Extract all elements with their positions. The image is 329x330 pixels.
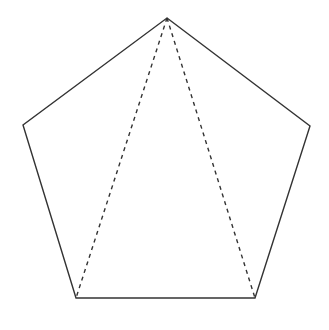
dashed-diagonal-left — [76, 18, 167, 298]
pentagon-diagram — [0, 0, 329, 330]
pentagon-outline — [23, 18, 310, 298]
dashed-diagonal-right — [167, 18, 255, 298]
